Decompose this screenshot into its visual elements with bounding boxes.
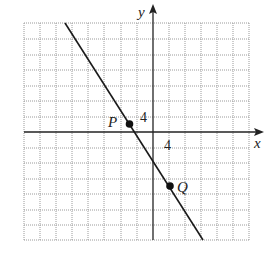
point-p bbox=[126, 120, 134, 128]
x-scale-label: 4 bbox=[164, 138, 171, 153]
y-axis-label: y bbox=[136, 4, 145, 20]
point-q-label: Q bbox=[177, 179, 188, 195]
point-q bbox=[166, 182, 174, 190]
y-scale-label: 4 bbox=[140, 110, 147, 125]
point-p-label: P bbox=[107, 114, 117, 130]
x-axis-label: x bbox=[253, 135, 261, 151]
coordinate-plane-figure: y x 4 4 P Q bbox=[0, 0, 271, 254]
